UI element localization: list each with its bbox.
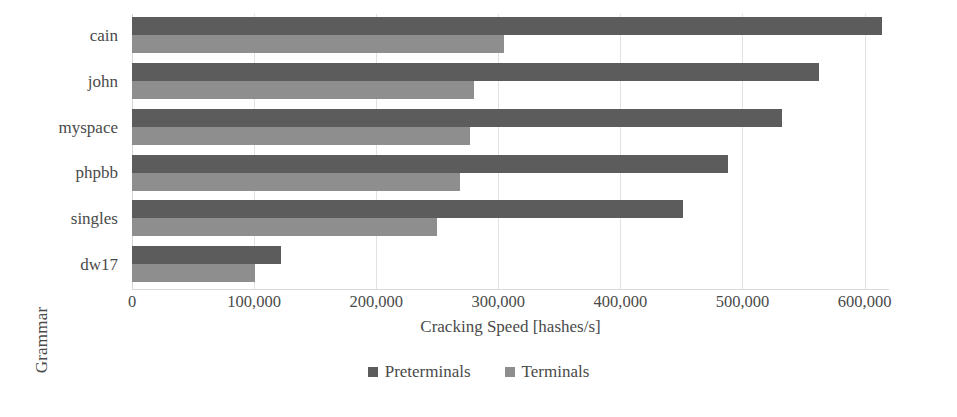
category-label-cain: cain xyxy=(0,26,118,46)
x-tick-label: 200,000 xyxy=(349,292,403,312)
category-label-john: john xyxy=(0,72,118,92)
bar xyxy=(132,173,460,191)
legend-label: Preterminals xyxy=(385,362,471,382)
bar xyxy=(132,246,281,264)
bar xyxy=(132,109,782,127)
bar-group xyxy=(132,197,889,243)
bar xyxy=(132,200,683,218)
category-label-singles: singles xyxy=(0,209,118,229)
bar-chart: Grammar cainjohnmyspacephpbbsinglesdw17 … xyxy=(0,0,957,417)
legend-swatch-icon xyxy=(368,367,378,377)
bar xyxy=(132,264,255,282)
x-tick-label: 0 xyxy=(128,292,136,312)
x-tick-label: 300,000 xyxy=(471,292,525,312)
category-axis-labels: cainjohnmyspacephpbbsinglesdw17 xyxy=(0,14,128,289)
bar-group xyxy=(132,60,889,106)
value-axis-line xyxy=(132,289,889,290)
bar xyxy=(132,127,470,145)
x-tick-label: 400,000 xyxy=(594,292,648,312)
bar xyxy=(132,17,882,35)
bar-group xyxy=(132,106,889,152)
legend-item[interactable]: Preterminals xyxy=(368,362,471,382)
value-axis-tick-labels: 0100,000200,000300,000400,000500,000600,… xyxy=(0,292,957,316)
x-tick-label: 500,000 xyxy=(716,292,770,312)
bar xyxy=(132,35,504,53)
category-label-myspace: myspace xyxy=(0,118,118,138)
legend-swatch-icon xyxy=(505,367,515,377)
plot-area xyxy=(132,14,889,289)
legend-item[interactable]: Terminals xyxy=(505,362,590,382)
bar-group xyxy=(132,243,889,289)
legend: PreterminalsTerminals xyxy=(0,362,957,382)
bar-group xyxy=(132,152,889,198)
x-tick-label: 600,000 xyxy=(838,292,892,312)
bar xyxy=(132,63,819,81)
bar-group xyxy=(132,14,889,60)
category-label-phpbb: phpbb xyxy=(0,163,118,183)
x-tick-label: 100,000 xyxy=(227,292,281,312)
bar xyxy=(132,218,437,236)
bar xyxy=(132,81,474,99)
bar xyxy=(132,155,728,173)
legend-label: Terminals xyxy=(522,362,590,382)
x-axis-title: Cracking Speed [hashes/s] xyxy=(132,317,889,337)
category-label-dw17: dw17 xyxy=(0,255,118,275)
